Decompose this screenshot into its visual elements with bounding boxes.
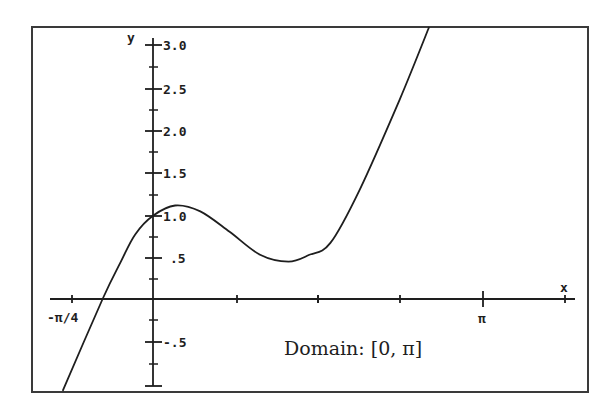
y-tick-label-2-5: 2.5 bbox=[163, 82, 186, 97]
y-tick-label-1-5: 1.5 bbox=[163, 166, 186, 181]
chart-canvas: -π/4 π x y 3.0 2.5 2.0 1.5 1.0 .5 -.5 Do… bbox=[0, 0, 610, 419]
x-axis-label: x bbox=[560, 280, 568, 295]
y-tick-label-3-0: 3.0 bbox=[163, 38, 187, 53]
x-tick-label-neg-pi-4: -π/4 bbox=[47, 310, 78, 325]
y-tick-label-0-5: .5 bbox=[170, 251, 186, 266]
y-tick-label-neg-0-5: -.5 bbox=[163, 335, 186, 350]
y-tick-label-2-0: 2.0 bbox=[163, 124, 187, 139]
x-tick-label-pi: π bbox=[478, 311, 486, 326]
domain-annotation: Domain: [0, π] bbox=[284, 337, 422, 359]
y-tick-label-1-0: 1.0 bbox=[163, 209, 187, 224]
y-axis-label: y bbox=[127, 30, 135, 45]
y-axis: y 3.0 2.5 2.0 1.5 1.0 .5 -.5 bbox=[127, 30, 187, 386]
x-axis: -π/4 π x bbox=[47, 280, 575, 326]
